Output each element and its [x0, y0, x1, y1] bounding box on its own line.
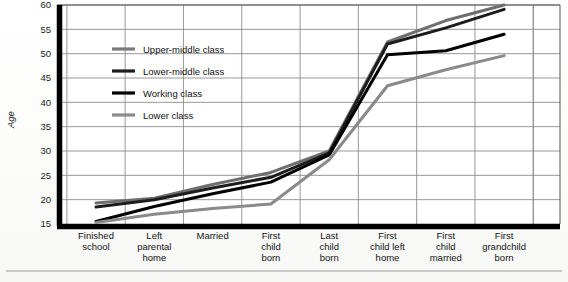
x-axis-category-label: Last: [320, 230, 338, 241]
legend-label-0: Upper-middle class: [143, 44, 225, 55]
x-axis-category-labels: FinishedschoolLeftparentalhomeMarriedFir…: [78, 230, 526, 263]
y-axis-tick-label: 50: [40, 48, 51, 59]
legend-label-3: Lower class: [143, 110, 193, 121]
y-axis-tick-label: 20: [40, 194, 51, 205]
y-axis-tick-labels: 15202530354045505560: [40, 0, 51, 229]
y-axis-tick-label: 35: [40, 121, 51, 132]
x-axis-category-label: child: [436, 241, 456, 252]
x-axis-category-label: school: [82, 241, 109, 252]
x-axis-category-label: child: [261, 241, 281, 252]
line-chart: 15202530354045505560 FinishedschoolLeftp…: [0, 0, 568, 282]
x-axis-category-label: married: [430, 252, 462, 263]
x-axis-category-label: Finished: [78, 230, 114, 241]
x-axis-category-label: First: [262, 230, 281, 241]
legend-label-1: Lower-middle class: [143, 66, 225, 77]
y-axis-tick-label: 60: [40, 0, 51, 10]
y-axis-title: Age: [5, 111, 16, 129]
y-axis-tick-label: 55: [40, 24, 51, 35]
x-axis-category-label: born: [320, 252, 339, 263]
x-axis-category-label: home: [142, 252, 166, 263]
x-axis-category-label: grandchild: [482, 241, 526, 252]
x-axis-category-label: Left: [146, 230, 162, 241]
x-axis-category-label: home: [376, 252, 400, 263]
y-axis-tick-label: 45: [40, 72, 51, 83]
x-axis-category-label: child left: [370, 241, 405, 252]
y-axis-tick-label: 40: [40, 97, 51, 108]
x-axis-category-label: born: [261, 252, 280, 263]
x-axis-category-label: child: [319, 241, 339, 252]
y-axis-tick-label: 15: [40, 218, 51, 229]
x-axis-category-label: First: [378, 230, 397, 241]
x-axis-category-label: born: [495, 252, 514, 263]
x-axis-category-label: parental: [137, 241, 171, 252]
x-axis-category-label: First: [495, 230, 514, 241]
y-axis-tick-label: 25: [40, 170, 51, 181]
y-axis-tick-label: 30: [40, 145, 51, 156]
legend-label-2: Working class: [143, 88, 202, 99]
chart-figure: 15202530354045505560 FinishedschoolLeftp…: [0, 0, 568, 282]
x-axis-category-label: First: [437, 230, 456, 241]
x-axis-category-label: Married: [196, 230, 228, 241]
